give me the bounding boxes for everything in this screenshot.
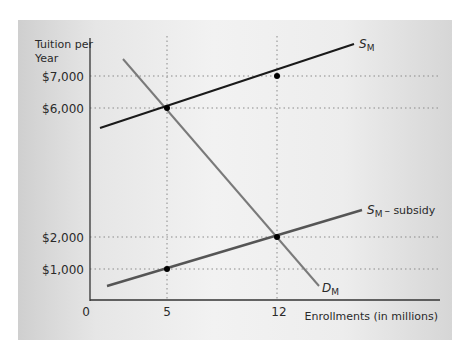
- x-tick-12: 12: [271, 305, 286, 319]
- point-5-6000: [164, 105, 170, 111]
- y-tick-7000: $7,000: [42, 70, 84, 84]
- y-tick-2000: $2,000: [42, 231, 84, 245]
- label-sm: SM: [359, 37, 374, 53]
- x-axis-title: Enrollments (in millions): [304, 310, 438, 323]
- x-tick-5: 5: [163, 305, 171, 319]
- gridlines: [90, 36, 440, 300]
- point-12-7000: [274, 73, 280, 79]
- x-tick-0: 0: [82, 305, 90, 319]
- supply-subsidy-curve: [107, 210, 362, 286]
- point-5-1000: [164, 266, 170, 272]
- supply-curve-sm: [100, 44, 354, 128]
- y-axis-title-line1: Tuition per: [34, 38, 93, 51]
- label-dm: DM: [322, 281, 339, 297]
- chart-svg: Tuition per Year $7,000 $6,000 $2,000 $1…: [0, 0, 472, 361]
- label-sm-subsidy: SM– subsidy: [367, 203, 436, 219]
- y-tick-1000: $1,000: [42, 263, 84, 277]
- y-axis-title-line2: Year: [34, 52, 59, 65]
- point-12-2000: [274, 234, 280, 240]
- y-tick-6000: $6,000: [42, 102, 84, 116]
